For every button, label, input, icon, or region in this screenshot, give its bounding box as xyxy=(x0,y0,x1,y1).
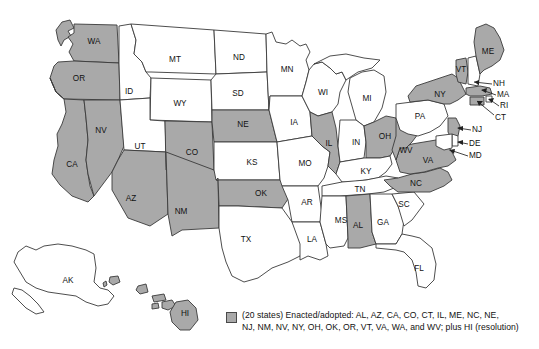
hawaii-island-4[interactable] xyxy=(152,294,166,302)
label-NC: NC xyxy=(410,179,422,188)
label-NH: NH xyxy=(493,79,505,88)
label-CA: CA xyxy=(66,160,78,169)
label-TN: TN xyxy=(355,185,366,194)
label-DE: DE xyxy=(469,139,481,148)
label-LA: LA xyxy=(307,235,318,244)
label-NY: NY xyxy=(434,90,446,99)
label-NV: NV xyxy=(95,126,107,135)
label-IL: IL xyxy=(326,139,333,148)
label-IA: IA xyxy=(290,118,298,127)
label-RI: RI xyxy=(500,101,508,110)
map-legend: (20 states) Enacted/adopted: AL, AZ, CA,… xyxy=(226,310,526,333)
enacted-swatch-icon xyxy=(226,312,237,323)
label-MD: MD xyxy=(469,151,482,160)
state-MD[interactable] xyxy=(436,134,452,150)
label-WV: WV xyxy=(399,146,413,155)
label-WA: WA xyxy=(88,37,101,46)
hawaii-island-5[interactable] xyxy=(152,303,159,309)
label-KY: KY xyxy=(361,167,372,176)
label-VA: VA xyxy=(423,156,434,165)
label-GA: GA xyxy=(377,218,389,227)
label-NJ: NJ xyxy=(472,125,482,134)
label-VT: VT xyxy=(456,65,466,74)
label-AR: AR xyxy=(301,198,312,207)
label-HI: HI xyxy=(181,309,189,318)
label-MN: MN xyxy=(281,65,294,74)
label-ME: ME xyxy=(482,47,495,56)
label-ID: ID xyxy=(125,87,133,96)
label-UT: UT xyxy=(135,142,146,151)
state-AK-aleutians[interactable] xyxy=(12,288,44,314)
legend-line-1: (20 states) Enacted/adopted: AL, AZ, CA,… xyxy=(242,310,519,322)
hawaii-island-1[interactable] xyxy=(103,281,107,287)
label-MA: MA xyxy=(497,90,510,99)
label-KS: KS xyxy=(247,158,258,167)
label-NM: NM xyxy=(175,207,188,216)
legend-line-2: NJ, NM, NV, NY, OH, OK, OR, VT, VA, WA, … xyxy=(242,322,519,334)
label-FL: FL xyxy=(414,264,424,273)
label-MT: MT xyxy=(169,55,181,64)
label-AK: AK xyxy=(63,276,74,285)
label-WY: WY xyxy=(173,99,187,108)
label-IN: IN xyxy=(352,138,360,147)
hawaii-island-3[interactable] xyxy=(136,284,148,294)
label-OH: OH xyxy=(379,132,391,141)
state-MA[interactable] xyxy=(466,86,492,96)
us-choropleth-map: AK HI WA OR CA NV ID MT WY UT AZ CO NM N… xyxy=(0,0,539,349)
label-OR: OR xyxy=(73,74,85,83)
label-SD: SD xyxy=(232,89,243,98)
state-MT[interactable] xyxy=(131,24,216,74)
label-MS: MS xyxy=(335,216,348,225)
map-svg: AK HI WA OR CA NV ID MT WY UT AZ CO NM N… xyxy=(0,0,539,349)
label-PA: PA xyxy=(415,112,426,121)
label-WI: WI xyxy=(318,88,328,97)
label-SC: SC xyxy=(398,200,409,209)
label-MI: MI xyxy=(362,94,371,103)
label-AZ: AZ xyxy=(126,194,136,203)
state-AZ[interactable] xyxy=(112,150,168,226)
state-OK[interactable] xyxy=(216,178,290,208)
state-ND[interactable] xyxy=(214,30,267,74)
label-CT: CT xyxy=(495,113,506,122)
hawaii-island-2[interactable] xyxy=(109,276,120,285)
legend-text: (20 states) Enacted/adopted: AL, AZ, CA,… xyxy=(242,310,519,333)
label-MO: MO xyxy=(298,159,311,168)
label-ND: ND xyxy=(233,53,245,62)
label-CO: CO xyxy=(186,148,198,157)
state-DE[interactable] xyxy=(452,134,458,146)
label-TX: TX xyxy=(241,235,252,244)
label-OK: OK xyxy=(255,189,267,198)
label-AL: AL xyxy=(353,221,363,230)
label-NE: NE xyxy=(237,120,249,129)
